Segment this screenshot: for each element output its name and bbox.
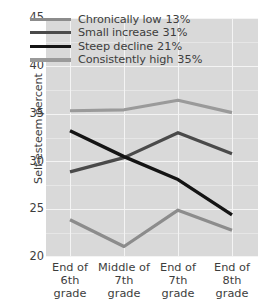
legend-item-chronically-low: Chronically low 13% [30, 13, 202, 25]
legend-swatch-steep-decline [30, 45, 71, 48]
legend-label-small-increase: Small increase [78, 26, 158, 39]
legend-item-steep-decline: Steep decline 21% [30, 40, 202, 52]
legend-swatch-consistently-high [30, 58, 71, 61]
legend-percent-small-increase: 31% [162, 26, 187, 39]
y-tick-label-35: 35 [14, 108, 44, 119]
legend-percent-consistently-high: 35% [177, 53, 202, 66]
legend-percent-steep-decline: 21% [157, 40, 182, 53]
y-tick-label-25: 25 [14, 203, 44, 214]
series-line-consistently-high [70, 100, 232, 112]
legend-label-steep-decline: Steep decline [78, 40, 153, 53]
legend-label-consistently-high: Consistently high [78, 53, 173, 66]
legend-swatch-chronically-low [30, 18, 71, 21]
x-tick-label-end-8th: End of 8th grade [198, 261, 266, 301]
x-tick-line1: End of [198, 261, 266, 274]
series-line-small-increase [70, 133, 232, 172]
legend-percent-chronically-low: 13% [165, 13, 190, 26]
legend-item-consistently-high: Consistently high 35% [30, 54, 202, 66]
legend-item-small-increase: Small increase 31% [30, 27, 202, 39]
y-tick-label-30: 30 [14, 156, 44, 167]
series-line-chronically-low [70, 210, 232, 246]
x-tick-line3: grade [198, 287, 266, 300]
self-esteem-trajectory-chart: Self-esteem percent 45 40 35 30 25 20 [0, 0, 268, 307]
x-tick-line2: 8th [198, 274, 266, 287]
legend: Chronically low 13% Small increase 31% S… [30, 13, 202, 66]
legend-swatch-small-increase [30, 31, 71, 34]
legend-label-chronically-low: Chronically low [78, 13, 161, 26]
